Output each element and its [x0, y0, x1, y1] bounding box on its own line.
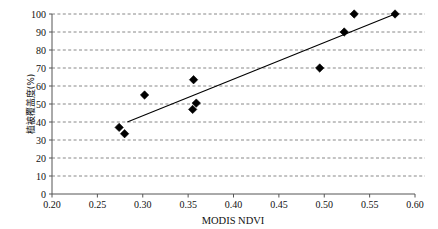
x-tick-marks: [52, 194, 415, 198]
y-tick-label-100: 100: [31, 9, 46, 20]
data-point-5: [189, 76, 197, 84]
x-tick-label-0.40: 0.40: [225, 199, 243, 210]
y-tick-label-80: 80: [36, 45, 46, 56]
x-tick-label-0.50: 0.50: [316, 199, 334, 210]
x-axis-title: MODIS NDVI: [202, 215, 265, 226]
x-tick-label-0.35: 0.35: [179, 199, 197, 210]
y-tick-label-90: 90: [36, 27, 46, 38]
y-tick-label-30: 30: [36, 135, 46, 146]
data-point-9: [391, 10, 399, 18]
y-tick-label-60: 60: [36, 81, 46, 92]
chart-canvas: 0.200.250.300.350.400.450.500.550.60 010…: [0, 0, 438, 229]
data-point-0: [115, 123, 123, 131]
y-tick-label-20: 20: [36, 153, 46, 164]
data-point-2: [140, 91, 148, 99]
x-tick-label-0.60: 0.60: [406, 199, 424, 210]
gridlines: [52, 14, 425, 176]
data-point-6: [316, 64, 324, 72]
data-point-7: [340, 28, 348, 36]
y-tick-label-40: 40: [36, 117, 46, 128]
x-tick-label-0.55: 0.55: [361, 199, 379, 210]
scatter-chart: 0.200.250.300.350.400.450.500.550.60 010…: [0, 0, 438, 229]
data-point-8: [350, 10, 358, 18]
y-tick-label-50: 50: [36, 99, 46, 110]
y-axis-title: 植被覆盖度(%): [25, 74, 36, 135]
x-tick-label-0.25: 0.25: [89, 199, 107, 210]
x-tick-label-0.20: 0.20: [43, 199, 61, 210]
x-tick-label-0.45: 0.45: [270, 199, 288, 210]
data-point-1: [120, 130, 128, 138]
x-tick-labels: 0.200.250.300.350.400.450.500.550.60: [43, 199, 424, 210]
y-tick-label-0: 0: [41, 189, 46, 200]
y-tick-label-70: 70: [36, 63, 46, 74]
x-tick-label-0.30: 0.30: [134, 199, 152, 210]
y-tick-label-10: 10: [36, 171, 46, 182]
